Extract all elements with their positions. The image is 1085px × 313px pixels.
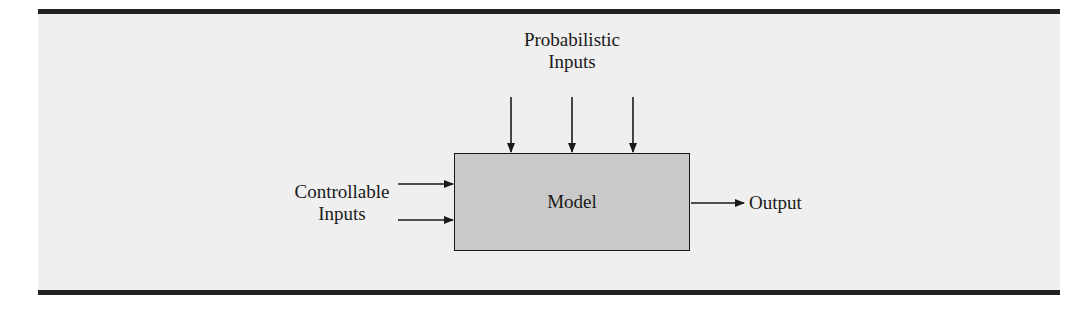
top-rule — [38, 9, 1060, 14]
bottom-rule — [38, 290, 1060, 295]
model-label: Model — [547, 191, 597, 213]
probabilistic-label-line2: Inputs — [511, 51, 633, 73]
probabilistic-label-line1: Probabilistic — [511, 29, 633, 51]
controllable-label-line1: Controllable — [284, 181, 400, 203]
controllable-inputs-label: Controllable Inputs — [284, 181, 400, 225]
model-block: Model — [454, 153, 690, 251]
output-label: Output — [749, 192, 802, 214]
probabilistic-inputs-label: Probabilistic Inputs — [511, 29, 633, 73]
controllable-label-line2: Inputs — [284, 203, 400, 225]
